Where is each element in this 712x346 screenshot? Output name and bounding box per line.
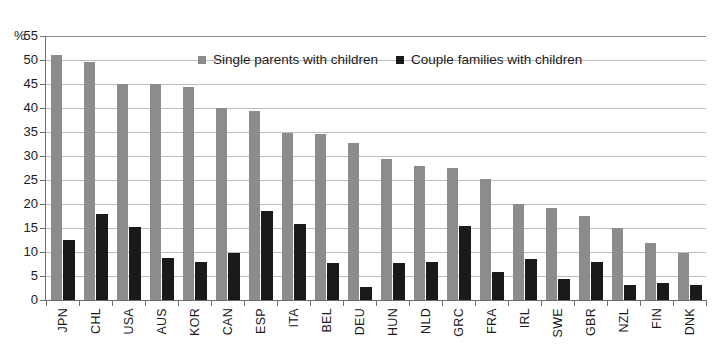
x-tick-label-fin: FIN xyxy=(650,308,664,329)
x-tick-label-irl: IRL xyxy=(518,308,532,328)
bar-group-swe xyxy=(541,36,574,300)
bar-dnk-single xyxy=(678,253,690,300)
y-tick-mark-25 xyxy=(40,180,46,181)
bar-group-nzl xyxy=(607,36,640,300)
y-tick-label-30: 30 xyxy=(8,148,38,163)
x-tick-mark-5 xyxy=(211,300,212,306)
y-tick-label-0: 0 xyxy=(8,292,38,307)
y-tick-label-10: 10 xyxy=(8,244,38,259)
x-tick-label-esp: ESP xyxy=(254,308,268,334)
x-tick-mark-18 xyxy=(640,300,641,306)
y-tick-mark-35 xyxy=(40,132,46,133)
bar-groups xyxy=(46,36,706,300)
bar-swe-single xyxy=(546,208,558,300)
x-tick-label-jpn: JPN xyxy=(56,308,70,333)
bar-ita-single xyxy=(282,133,294,300)
y-tick-label-35: 35 xyxy=(8,124,38,139)
bar-group-fin xyxy=(640,36,673,300)
x-tick-mark-4 xyxy=(178,300,179,306)
y-tick-label-45: 45 xyxy=(8,76,38,91)
bar-jpn-couple xyxy=(63,240,75,300)
bar-deu-couple xyxy=(360,287,372,300)
bar-usa-single xyxy=(117,84,129,300)
bar-group-nld xyxy=(409,36,442,300)
y-tick-mark-45 xyxy=(40,84,46,85)
x-tick-label-ita: ITA xyxy=(287,308,301,327)
bar-deu-single xyxy=(348,143,360,300)
y-tick-mark-30 xyxy=(40,156,46,157)
y-tick-mark-55 xyxy=(40,36,46,37)
y-tick-label-55: 55 xyxy=(8,28,38,43)
bar-kor-couple xyxy=(195,262,207,300)
x-tick-mark-13 xyxy=(475,300,476,306)
x-tick-label-dnk: DNK xyxy=(683,308,697,335)
bar-fin-single xyxy=(645,243,657,300)
bar-group-usa xyxy=(112,36,145,300)
bar-irl-couple xyxy=(525,259,537,300)
bar-group-chl xyxy=(79,36,112,300)
y-tick-label-40: 40 xyxy=(8,100,38,115)
y-tick-mark-20 xyxy=(40,204,46,205)
x-tick-mark-10 xyxy=(376,300,377,306)
bar-nzl-single xyxy=(612,228,624,300)
legend-item-couple: Couple families with children xyxy=(396,52,582,67)
bar-group-gbr xyxy=(574,36,607,300)
x-tick-mark-end xyxy=(706,300,707,306)
bar-grc-couple xyxy=(459,226,471,300)
x-tick-mark-1 xyxy=(79,300,80,306)
bar-group-ita xyxy=(277,36,310,300)
bar-aus-single xyxy=(150,84,162,300)
y-tick-mark-50 xyxy=(40,60,46,61)
plot-area xyxy=(46,36,706,300)
legend-label-single: Single parents with children xyxy=(213,52,378,67)
bar-group-can xyxy=(211,36,244,300)
bar-swe-couple xyxy=(558,279,570,300)
bar-irl-single xyxy=(513,204,525,300)
bar-group-kor xyxy=(178,36,211,300)
x-tick-mark-11 xyxy=(409,300,410,306)
bar-group-irl xyxy=(508,36,541,300)
y-axis-line xyxy=(45,36,46,301)
y-tick-label-25: 25 xyxy=(8,172,38,187)
legend-swatch-couple-icon xyxy=(396,56,404,64)
bar-can-single xyxy=(216,108,228,300)
bar-group-esp xyxy=(244,36,277,300)
bar-esp-couple xyxy=(261,211,273,300)
bar-grc-single xyxy=(447,168,459,300)
x-tick-label-chl: CHL xyxy=(89,308,103,334)
bar-group-deu xyxy=(343,36,376,300)
bar-nld-couple xyxy=(426,262,438,300)
chart-legend: Single parents with children Couple fami… xyxy=(198,52,582,67)
bar-group-grc xyxy=(442,36,475,300)
bar-kor-single xyxy=(183,87,195,300)
x-tick-label-usa: USA xyxy=(122,308,136,335)
bar-aus-couple xyxy=(162,258,174,300)
bar-jpn-single xyxy=(51,55,63,300)
x-tick-label-kor: KOR xyxy=(188,308,202,336)
bar-gbr-single xyxy=(579,216,591,300)
bar-chl-single xyxy=(84,62,96,300)
x-tick-mark-9 xyxy=(343,300,344,306)
legend-swatch-single-icon xyxy=(198,56,206,64)
y-tick-label-20: 20 xyxy=(8,196,38,211)
y-tick-mark-40 xyxy=(40,108,46,109)
x-tick-label-bel: BEL xyxy=(320,308,334,333)
x-tick-label-grc: GRC xyxy=(452,308,466,337)
y-tick-label-15: 15 xyxy=(8,220,38,235)
x-tick-mark-0 xyxy=(46,300,47,306)
bar-fra-single xyxy=(480,179,492,300)
bar-group-jpn xyxy=(46,36,79,300)
bar-esp-single xyxy=(249,111,261,300)
legend-item-single: Single parents with children xyxy=(198,52,378,67)
x-tick-mark-19 xyxy=(673,300,674,306)
poverty-rate-bar-chart: % 0510152025303540455055 JPNCHLUSAAUSKOR… xyxy=(0,0,712,346)
bar-chl-couple xyxy=(96,214,108,300)
x-tick-label-gbr: GBR xyxy=(584,308,598,336)
x-tick-mark-15 xyxy=(541,300,542,306)
y-tick-label-5: 5 xyxy=(8,268,38,283)
bar-bel-single xyxy=(315,134,327,300)
bar-group-bel xyxy=(310,36,343,300)
bar-group-dnk xyxy=(673,36,706,300)
y-tick-mark-10 xyxy=(40,252,46,253)
bar-usa-couple xyxy=(129,227,141,300)
